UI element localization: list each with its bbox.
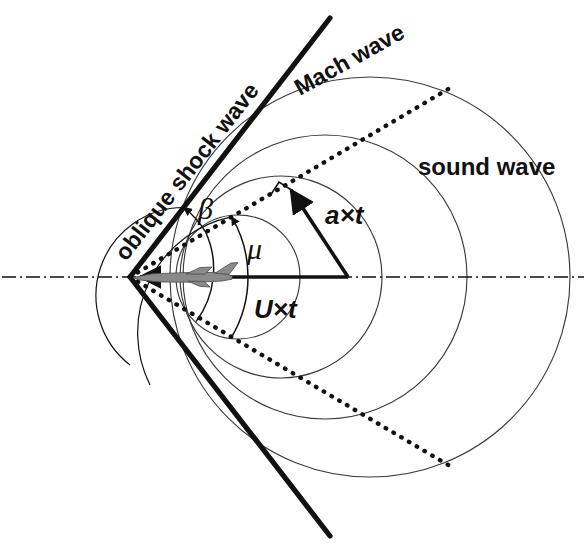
- u-times-t-label: U×t: [254, 294, 298, 324]
- shock-wave-diagram: oblique shock wave Mach wave sound wave …: [0, 0, 586, 551]
- beta-angle-label: β: [197, 192, 213, 225]
- a-times-t-label: a×t: [325, 200, 365, 230]
- mu-angle-label: μ: [246, 232, 262, 265]
- sound-wave-label: sound wave: [418, 153, 555, 180]
